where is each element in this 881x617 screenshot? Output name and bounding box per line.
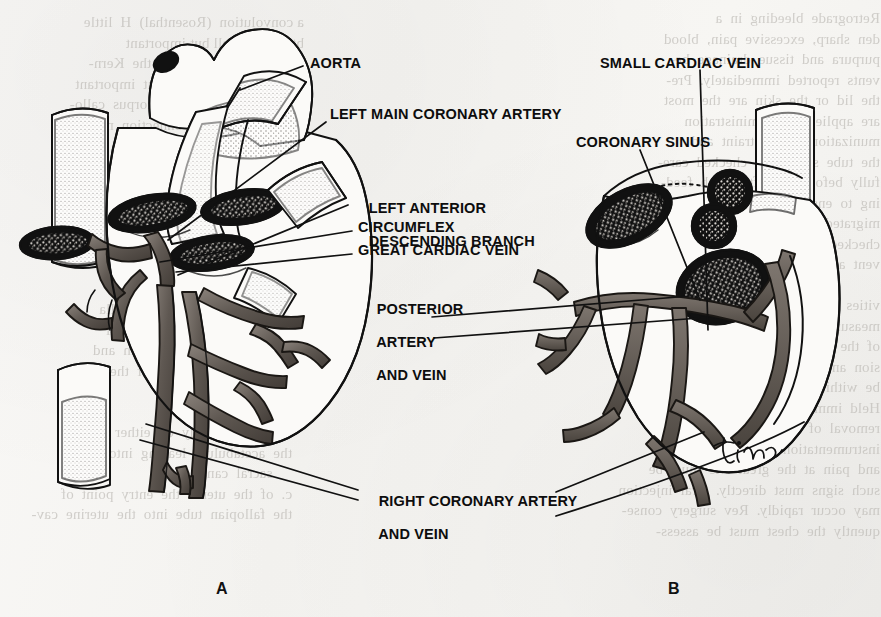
label-line: ARTERY xyxy=(376,334,436,350)
label-line: RIGHT CORONARY ARTERY xyxy=(379,493,578,509)
label-coronary-sinus: CORONARY SINUS xyxy=(576,134,710,151)
panel-label-a: A xyxy=(216,580,228,598)
label-line: POSTERIOR xyxy=(377,301,464,317)
label-right-coronary-artery-and-vein: RIGHT CORONARY ARTERY AND VEIN xyxy=(362,476,577,559)
label-aorta: AORTA xyxy=(310,55,361,72)
label-line: LEFT ANTERIOR xyxy=(369,200,486,216)
label-line: AND VEIN xyxy=(376,367,447,383)
heart-panel-a xyxy=(19,29,372,498)
figure-page: a convolution (Rosenthal) H little btool… xyxy=(0,0,881,617)
label-great-cardiac-vein: GREAT CARDIAC VEIN xyxy=(358,242,519,259)
label-left-main-coronary-artery: LEFT MAIN CORONARY ARTERY xyxy=(330,106,561,123)
label-line: AND VEIN xyxy=(378,526,449,542)
label-posterior-artery-and-vein: POSTERIOR ARTERY AND VEIN xyxy=(360,284,463,400)
label-small-cardiac-vein: SMALL CARDIAC VEIN xyxy=(600,55,761,72)
heart-panel-b xyxy=(534,103,840,516)
vessel-ostium xyxy=(692,204,736,248)
panel-label-b: B xyxy=(668,580,680,598)
label-circumflex: CIRCUMFLEX xyxy=(358,219,455,236)
